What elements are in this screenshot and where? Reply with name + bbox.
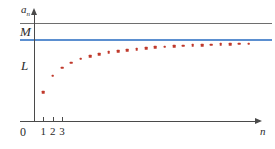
- data-point: [70, 61, 73, 64]
- origin-label: 0: [20, 126, 26, 138]
- data-point: [247, 42, 250, 45]
- reference-line-l-label: L: [21, 59, 28, 72]
- x-axis: [20, 121, 258, 122]
- sequence-limit-figure: an n M L 0 123: [0, 0, 275, 149]
- data-point: [219, 43, 222, 46]
- x-axis-tick: [53, 117, 54, 122]
- data-point: [61, 66, 64, 69]
- data-point: [201, 44, 204, 47]
- reference-line-l: [20, 39, 272, 40]
- data-point: [145, 47, 148, 50]
- x-axis-tick-label: 1: [41, 126, 47, 137]
- x-axis-tick-label: 3: [59, 126, 65, 137]
- data-point: [182, 45, 185, 48]
- data-point: [117, 50, 120, 53]
- data-point: [229, 43, 232, 46]
- data-point: [154, 46, 157, 49]
- data-point: [191, 44, 194, 47]
- data-point: [173, 45, 176, 48]
- data-point: [238, 43, 241, 46]
- y-axis-arrow-icon: [31, 8, 37, 15]
- data-point: [135, 48, 138, 51]
- data-point: [51, 74, 54, 77]
- data-point: [163, 46, 166, 49]
- x-axis-tick: [62, 117, 63, 122]
- data-point: [107, 51, 110, 54]
- y-axis-label: an: [21, 4, 30, 18]
- y-axis: [34, 14, 35, 122]
- y-axis-label-subscript: n: [27, 10, 31, 18]
- data-point: [98, 53, 101, 56]
- x-axis-label: n: [260, 126, 266, 137]
- data-point: [126, 49, 129, 52]
- reference-line-m-label: M: [20, 25, 31, 38]
- data-point: [79, 58, 82, 61]
- data-point: [210, 43, 213, 46]
- x-axis-tick-label: 2: [50, 126, 56, 137]
- data-point: [42, 91, 45, 94]
- x-axis-arrow-icon: [255, 118, 262, 124]
- x-axis-tick: [43, 117, 44, 122]
- data-point: [89, 55, 92, 58]
- reference-line-m: [20, 23, 272, 24]
